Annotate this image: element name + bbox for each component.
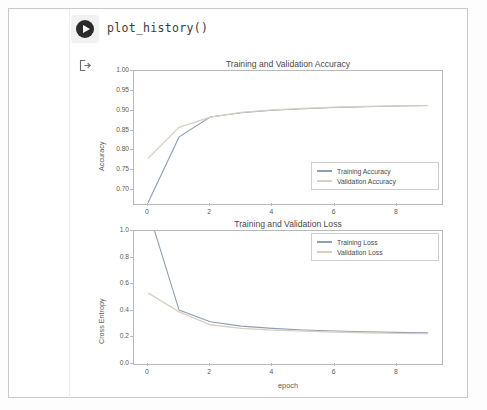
chart-accuracy-legend: Training Accuracy Validation Accuracy xyxy=(311,162,439,190)
ytick-mark xyxy=(130,189,133,190)
xtick-label: 0 xyxy=(135,368,159,375)
code-cell-header: plot_history() xyxy=(71,15,221,45)
ytick-label: 0.75 xyxy=(101,165,129,172)
ytick-label: 0.6 xyxy=(101,279,129,286)
xtick-mark xyxy=(271,203,272,206)
chart-accuracy-title: Training and Validation Accuracy xyxy=(133,59,443,69)
legend-item-validation-loss: Validation Loss xyxy=(317,247,433,257)
legend-item-training-accuracy: Training Accuracy xyxy=(317,166,433,176)
ytick-label: 0.4 xyxy=(101,306,129,313)
ytick-label: 0.2 xyxy=(101,332,129,339)
ytick-label: 0.95 xyxy=(101,86,129,93)
notebook-cell-frame: plot_history() Training and Validation A… xyxy=(8,8,468,398)
ytick-mark xyxy=(130,110,133,111)
legend-item-training-loss: Training Loss xyxy=(317,237,433,247)
xtick-mark xyxy=(209,363,210,366)
legend-swatch-training-loss xyxy=(317,241,332,243)
ytick-label: 0.8 xyxy=(101,253,129,260)
ytick-mark xyxy=(130,130,133,131)
ytick-mark xyxy=(130,363,133,364)
legend-swatch-training-accuracy xyxy=(317,170,332,172)
ytick-mark xyxy=(130,230,133,231)
xtick-mark xyxy=(147,363,148,366)
output-arrow-icon xyxy=(79,59,92,72)
xtick-label: 6 xyxy=(322,208,346,215)
ytick-label: 0.0 xyxy=(101,359,129,366)
cell-code-text[interactable]: plot_history() xyxy=(107,21,208,35)
xtick-mark xyxy=(271,363,272,366)
legend-label-validation-loss: Validation Loss xyxy=(337,249,383,256)
legend-item-validation-accuracy: Validation Accuracy xyxy=(317,176,433,186)
xtick-mark xyxy=(396,203,397,206)
notebook-page: plot_history() Training and Validation A… xyxy=(0,0,487,410)
ytick-mark xyxy=(130,70,133,71)
xtick-mark xyxy=(396,363,397,366)
ytick-mark xyxy=(130,336,133,337)
ytick-mark xyxy=(130,90,133,91)
xtick-label: 4 xyxy=(259,208,283,215)
cell-gutter-divider xyxy=(69,9,70,399)
play-circle-icon[interactable] xyxy=(76,20,94,38)
ytick-label: 1.00 xyxy=(101,66,129,73)
xtick-label: 2 xyxy=(197,208,221,215)
xtick-mark xyxy=(334,203,335,206)
matplotlib-figure: Training and Validation Accuracy Accurac… xyxy=(93,59,453,399)
chart-loss-legend: Training Loss Validation Loss xyxy=(311,233,439,261)
xtick-mark xyxy=(209,203,210,206)
legend-swatch-validation-loss xyxy=(317,251,332,253)
xtick-mark xyxy=(147,203,148,206)
ytick-mark xyxy=(130,283,133,284)
ytick-mark xyxy=(130,169,133,170)
ytick-label: 0.80 xyxy=(101,145,129,152)
ytick-mark xyxy=(130,257,133,258)
xtick-label: 8 xyxy=(384,368,408,375)
xtick-label: 8 xyxy=(384,208,408,215)
legend-label-training-accuracy: Training Accuracy xyxy=(337,168,391,175)
chart-loss-title: Training and Validation Loss xyxy=(133,219,443,229)
ytick-label: 0.70 xyxy=(101,185,129,192)
xtick-label: 6 xyxy=(322,368,346,375)
ytick-label: 1.0 xyxy=(101,226,129,233)
legend-label-training-loss: Training Loss xyxy=(337,239,378,246)
play-triangle-icon xyxy=(83,25,90,33)
ytick-label: 0.90 xyxy=(101,106,129,113)
chart-loss-xlabel: epoch xyxy=(133,381,443,390)
ytick-label: 0.85 xyxy=(101,126,129,133)
xtick-label: 4 xyxy=(259,368,283,375)
ytick-mark xyxy=(130,310,133,311)
legend-label-validation-accuracy: Validation Accuracy xyxy=(337,178,396,185)
legend-swatch-validation-accuracy xyxy=(317,180,332,182)
xtick-label: 2 xyxy=(197,368,221,375)
xtick-label: 0 xyxy=(135,208,159,215)
xtick-mark xyxy=(334,363,335,366)
ytick-mark xyxy=(130,149,133,150)
